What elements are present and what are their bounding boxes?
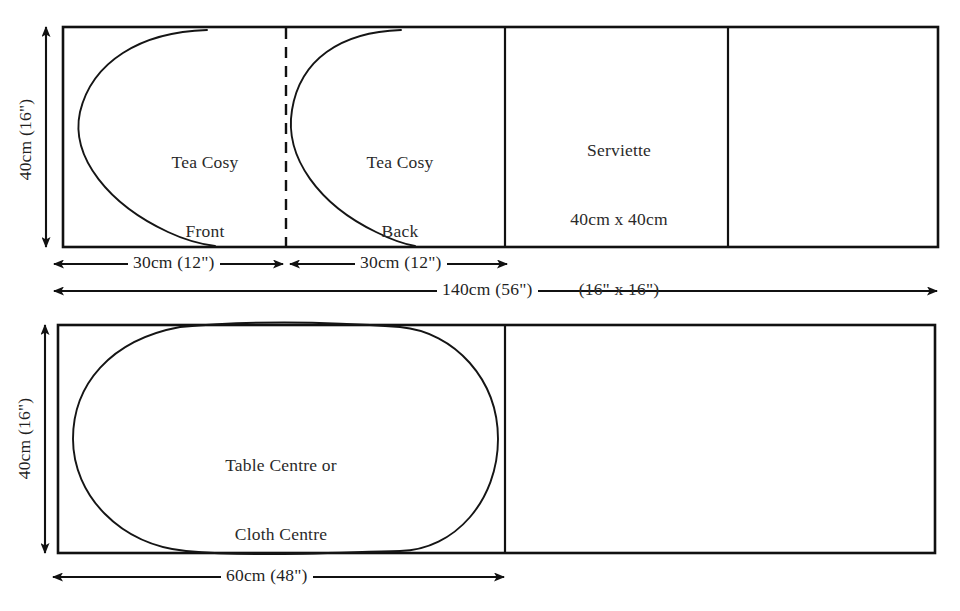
diagram-canvas	[0, 0, 960, 611]
top-fabric-height-label: 40cm (16")	[15, 85, 36, 195]
serviette-label-line2: 40cm x 40cm	[521, 208, 717, 231]
serviette-label: Serviette 40cm x 40cm (16" x 16")	[521, 93, 717, 347]
serviette-label-line1: Serviette	[521, 139, 717, 162]
fabric-cutting-diagram: Tea Cosy Front Tea Cosy Back Serviette 4…	[0, 0, 960, 611]
tea-cosy-back-width-label: 30cm (12")	[355, 252, 447, 273]
bottom-fabric-width-label: 60cm (48")	[221, 565, 313, 586]
tea-cosy-front-label-line1: Tea Cosy	[120, 151, 290, 174]
tea-cosy-back-label-line2: Back	[315, 220, 485, 243]
top-fabric-width-label: 140cm (56")	[437, 279, 538, 300]
serviette-label-line3: (16" x 16")	[521, 278, 717, 301]
tea-cosy-back-label-line1: Tea Cosy	[315, 151, 485, 174]
tea-cosy-front-label-line2: Front	[120, 220, 290, 243]
tea-cosy-front-width-label: 30cm (12")	[128, 252, 220, 273]
bottom-fabric-height-label: 40cm (16")	[14, 384, 35, 494]
table-centre-label-line2: Cloth Centre	[186, 523, 376, 546]
table-centre-label-line1: Table Centre or	[186, 454, 376, 477]
